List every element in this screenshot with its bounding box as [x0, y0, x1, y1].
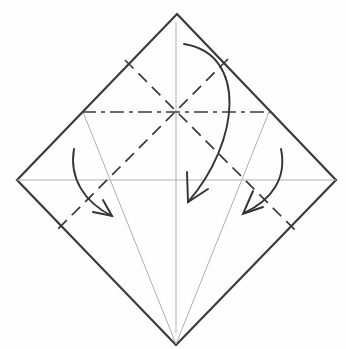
origami-diagram-page: [0, 0, 346, 349]
origami-step-diagram: [0, 0, 346, 349]
